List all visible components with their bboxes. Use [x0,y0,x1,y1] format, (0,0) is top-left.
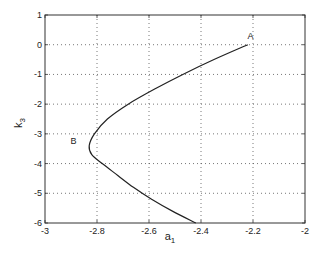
y-tick-label: 1 [37,10,42,20]
y-tick-label: -1 [34,69,42,79]
chart: -3-2.8-2.6-2.4-2.2-210-1-2-3-4-5-6 AB a1… [0,0,324,255]
annotation-label: A [247,31,253,41]
grid-lines [45,15,305,223]
y-tick-label: -5 [34,188,42,198]
y-tick-label: -6 [34,218,42,228]
annotation-label: B [71,136,77,146]
x-tick-label: -2.2 [245,226,261,236]
plot-frame [45,15,305,223]
y-tick-label: -3 [34,129,42,139]
x-tick-label: -2.4 [193,226,209,236]
axis-ticks: -3-2.8-2.6-2.4-2.2-210-1-2-3-4-5-6 [34,10,309,236]
x-tick-label: -2.6 [141,226,157,236]
y-axis-label: k3 [12,117,27,128]
y-tick-label: 0 [37,40,42,50]
y-tick-label: -2 [34,99,42,109]
x-tick-label: -3 [41,226,49,236]
y-tick-label: -4 [34,159,42,169]
x-tick-label: -2.8 [89,226,105,236]
x-tick-label: -2 [301,226,309,236]
data-curve [89,45,248,223]
x-axis-label: a1 [165,230,176,245]
